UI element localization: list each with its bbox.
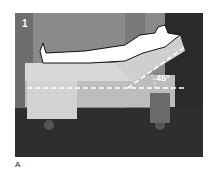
bed-photo-illustration [15,13,203,157]
bed-photo-figure: 1 45° [15,13,203,157]
angle-label: 45° [156,73,170,83]
panel-number: 1 [22,18,28,29]
figure-caption-letter: A [15,160,20,169]
